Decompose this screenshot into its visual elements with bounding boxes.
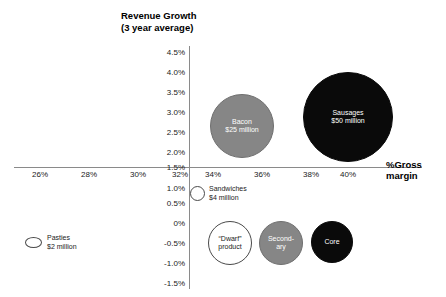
legend-item-core[interactable]: Core bbox=[311, 221, 353, 263]
legend-item-secondary[interactable]: Second- ary bbox=[259, 221, 303, 265]
bubble-pasties-label: Pasties $2 million bbox=[47, 234, 77, 251]
y-axis-tick-labels: 4.5% 4.0% 3.5% 3.0% 2.5% 2.0% 1.5% 1.0% … bbox=[139, 0, 185, 297]
x-tick-label: 34% bbox=[193, 170, 233, 180]
bubble-sandwiches[interactable] bbox=[190, 186, 205, 201]
x-axis-title: %Gross margin bbox=[386, 159, 422, 181]
bubble-bacon[interactable]: Bacon $25 million bbox=[210, 94, 274, 158]
x-tick-label: 40% bbox=[328, 170, 368, 180]
y-tick-label: 1.0% bbox=[139, 184, 185, 193]
y-tick-label: -1.5% bbox=[139, 279, 185, 288]
bubble-sausages[interactable]: Sausages $50 million bbox=[303, 72, 393, 162]
y-tick-label: 0% bbox=[139, 219, 185, 228]
y-tick-label: 4.5% bbox=[139, 48, 185, 57]
bubble-sandwiches-label: Sandwiches $4 million bbox=[209, 185, 247, 202]
x-tick-label: 28% bbox=[69, 170, 109, 180]
y-tick-label: -0.5% bbox=[139, 239, 185, 248]
x-axis-line bbox=[14, 167, 422, 168]
bubble-pasties[interactable] bbox=[25, 237, 42, 248]
x-tick-label: 26% bbox=[20, 170, 60, 180]
y-tick-label: 3.0% bbox=[139, 108, 185, 117]
y-tick-label: 2.0% bbox=[139, 148, 185, 157]
legend-item-dwarf-product-label: “Dwarf” product bbox=[218, 235, 241, 252]
x-tick-label: 38% bbox=[291, 170, 331, 180]
x-tick-label: 30% bbox=[118, 170, 158, 180]
y-tick-label: -1.0% bbox=[139, 259, 185, 268]
y-tick-label: 3.5% bbox=[139, 88, 185, 97]
y-tick-label: 2.5% bbox=[139, 128, 185, 137]
bubble-bacon-label: Bacon $25 million bbox=[225, 118, 258, 135]
legend-item-secondary-label: Second- ary bbox=[268, 235, 294, 252]
y-tick-label: 0.5% bbox=[139, 199, 185, 208]
bubble-chart-figure: Revenue Growth (3 year average) 4.5% 4.0… bbox=[0, 0, 446, 297]
x-tick-label: 36% bbox=[242, 170, 282, 180]
bubble-sausages-label: Sausages $50 million bbox=[331, 109, 364, 126]
legend-item-core-label: Core bbox=[324, 238, 339, 247]
legend-item-dwarf-product[interactable]: “Dwarf” product bbox=[208, 221, 252, 265]
y-tick-label: 4.0% bbox=[139, 68, 185, 77]
